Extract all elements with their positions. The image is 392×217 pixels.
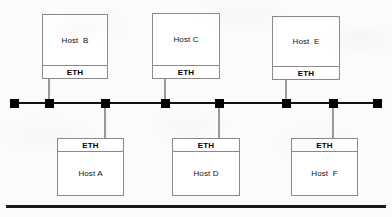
- ethernet-bus-line: [14, 102, 378, 104]
- bus-tap-marker-6: [282, 99, 291, 108]
- host-interface-host-c: ETH: [153, 65, 219, 78]
- stem-host-f: [332, 103, 334, 138]
- host-box-host-e[interactable]: Host E ETH: [272, 16, 340, 80]
- host-interface-host-b: ETH: [43, 65, 107, 78]
- host-box-host-f[interactable]: ETH Host F: [291, 138, 358, 196]
- bus-tap-marker-7: [329, 99, 338, 108]
- host-name-host-c: Host C: [153, 14, 219, 65]
- network-diagram-canvas: Host B ETH Host C ETH Host E ETH ETH Hos…: [0, 0, 392, 217]
- bus-tap-marker-2: [45, 99, 54, 108]
- bus-tap-marker-8: [373, 99, 382, 108]
- host-interface-host-e: ETH: [273, 66, 339, 79]
- host-box-host-d[interactable]: ETH Host D: [172, 138, 240, 196]
- host-interface-host-f: ETH: [292, 139, 357, 152]
- host-name-host-a: Host A: [58, 152, 123, 195]
- host-name-host-f: Host F: [292, 152, 357, 195]
- host-box-host-c[interactable]: Host C ETH: [152, 13, 220, 79]
- stem-host-a: [104, 103, 106, 138]
- bus-tap-marker-5: [215, 99, 224, 108]
- bus-tap-marker-3: [101, 99, 110, 108]
- host-box-host-a[interactable]: ETH Host A: [57, 138, 124, 196]
- figure-base-rule: [6, 205, 386, 208]
- host-name-host-e: Host E: [273, 17, 339, 66]
- bus-tap-marker-4: [161, 99, 170, 108]
- host-name-host-d: Host D: [173, 152, 239, 195]
- host-name-host-b: Host B: [43, 15, 107, 65]
- host-interface-host-a: ETH: [58, 139, 123, 152]
- host-box-host-b[interactable]: Host B ETH: [42, 14, 108, 79]
- host-interface-host-d: ETH: [173, 139, 239, 152]
- stem-host-d: [218, 103, 220, 138]
- bus-tap-marker-1: [10, 99, 19, 108]
